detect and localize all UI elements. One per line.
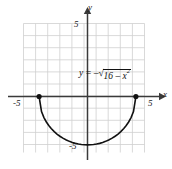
grid-lines	[24, 24, 145, 153]
endpoint-left	[37, 94, 42, 99]
endpoint-right	[133, 94, 138, 99]
y-tick-label-negative-5: -5	[69, 142, 77, 151]
y-axis	[84, 7, 91, 160]
equation-radicand: 16 – x2	[103, 69, 131, 82]
x-tick-label-negative-5: -5	[13, 99, 21, 108]
equation-radicand-lead: 16 –	[104, 71, 123, 81]
equation-annotation: y = – √ 16 – x2	[79, 69, 131, 82]
equation-radicand-exponent: 2	[127, 67, 130, 74]
y-axis-label: y	[88, 3, 92, 12]
equation-equals: =	[83, 69, 93, 79]
coordinate-plane	[0, 0, 172, 169]
x-tick-label-positive-5: 5	[148, 99, 153, 108]
y-tick-label-positive-5: 5	[74, 20, 79, 29]
x-axis-label: x	[163, 90, 167, 99]
graph-figure: -5 5 5 -5 x y y = – √ 16 – x2	[0, 0, 172, 169]
